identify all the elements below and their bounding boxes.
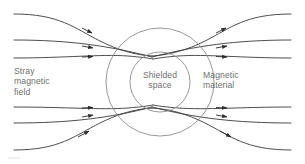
field-line-6-right	[152, 108, 291, 150]
arrow-line-2-left	[82, 46, 93, 48]
label-stray-magnetic-field: Stray magnetic field	[14, 66, 50, 97]
arrow-line-5-left	[82, 115, 93, 117]
field-line-1-right	[152, 14, 291, 56]
label-shielded-space: Shielded space	[127, 70, 193, 91]
field-line-1-left	[14, 14, 152, 56]
arrow-line-6-right	[220, 131, 231, 137]
arrow-line-2-right	[216, 46, 227, 48]
arrow-line-3-left	[82, 57, 93, 58]
field-lines-upper	[14, 14, 291, 59]
arrow-line-5-right	[216, 115, 227, 117]
arrow-line-3-right	[216, 57, 227, 58]
arrow-line-4-right	[216, 108, 227, 109]
field-line-6-left	[14, 108, 152, 150]
field-line-2-left	[14, 40, 152, 57]
field-line-5-left	[14, 107, 152, 123]
label-magnetic-material: Magnetic material	[203, 70, 239, 91]
magnetic-shielding-figure: Stray magnetic field Shielded space Magn…	[0, 0, 305, 164]
arrow-line-4-left	[82, 108, 93, 109]
field-lines-lower	[14, 105, 291, 150]
